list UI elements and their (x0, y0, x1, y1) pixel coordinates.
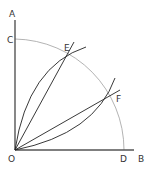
label-o: O (8, 154, 15, 164)
label-e: E (64, 43, 70, 53)
label-a: A (9, 9, 16, 19)
label-b: B (138, 154, 144, 164)
trisection-diagram: A C E F O D B (0, 0, 151, 169)
arc-through-e (15, 47, 86, 150)
arc-through-f (15, 78, 115, 150)
label-d: D (120, 154, 127, 164)
line-of (15, 90, 120, 150)
label-c: C (7, 35, 13, 45)
label-f: F (116, 94, 121, 104)
line-oe (15, 42, 74, 150)
